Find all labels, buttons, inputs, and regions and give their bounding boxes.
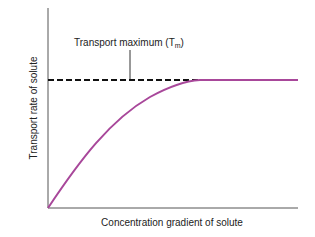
transport-max-chart: Transport maximum (Tm) Concentration gra… — [0, 0, 315, 237]
tm-label: Transport maximum (Tm) — [74, 37, 184, 49]
y-axis-label: Transport rate of solute — [28, 56, 39, 159]
transport-curve — [48, 80, 298, 208]
x-axis-label: Concentration gradient of solute — [101, 217, 243, 228]
